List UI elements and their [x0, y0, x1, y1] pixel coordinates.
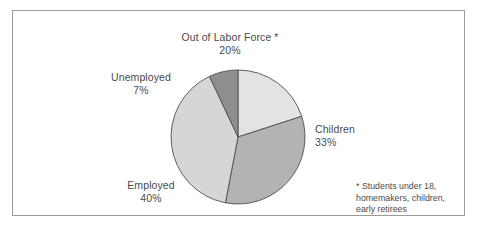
slice-label-unemployed: Unemployed 7% [89, 71, 193, 97]
slice-label-name: Unemployed [111, 71, 171, 83]
footnote-marker: * [356, 181, 359, 191]
slice-label-name: Employed [127, 179, 175, 191]
slice-label-name: Children [315, 123, 355, 135]
slice-label-children: Children 33% [315, 123, 405, 149]
slice-label-employed: Employed 40% [99, 179, 203, 205]
footnote-line-1: * Students under 18, [361, 181, 477, 193]
slice-label-out-of-labor-force: Out of Labor Force * 20% [159, 31, 301, 57]
footnote: * Students under 18, homemakers, childre… [356, 181, 477, 216]
slice-label-percent: 33% [315, 136, 405, 149]
slice-label-percent: 20% [159, 44, 301, 57]
footnote-line-3: early retirees [361, 204, 477, 216]
slice-label-percent: 40% [99, 192, 203, 205]
slice-label-percent: 7% [89, 84, 193, 97]
footnote-text-1: Students under 18, [362, 181, 436, 191]
footnote-line-2: homemakers, children, [361, 193, 477, 205]
slice-label-name: Out of Labor Force * [181, 31, 278, 43]
figure-border: Out of Labor Force * 20% Unemployed 7% C… [12, 10, 465, 216]
